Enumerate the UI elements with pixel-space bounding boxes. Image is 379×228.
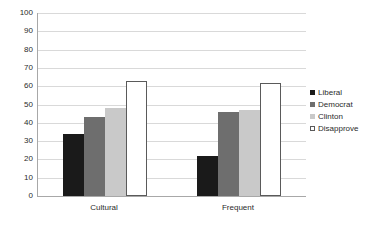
y-axis-tick-label: 20 — [3, 155, 33, 163]
bar-cultural-disapprove — [126, 81, 147, 196]
legend-swatch-icon-liberal — [310, 90, 315, 95]
y-axis-tick-label: 50 — [3, 101, 33, 109]
bar-frequent-democrat — [218, 112, 239, 196]
legend-item-clinton[interactable]: Clinton — [310, 110, 378, 122]
legend-label: Clinton — [318, 112, 343, 121]
legend-label: Disapprove — [318, 124, 358, 133]
bar-cultural-democrat — [84, 117, 105, 196]
y-axis-tick-label: 80 — [3, 46, 33, 54]
bar-frequent-liberal — [197, 156, 218, 196]
y-axis-tick-label: 70 — [3, 64, 33, 72]
bar-group-frequent — [197, 13, 280, 196]
legend-item-democrat[interactable]: Democrat — [310, 98, 378, 110]
legend-label: Liberal — [318, 88, 342, 97]
bar-frequent-disapprove — [260, 83, 281, 196]
chart-legend: LiberalDemocratClintonDisapprove — [310, 86, 378, 134]
bar-chart: 1009080706050403020100 CulturalFrequent … — [0, 0, 379, 228]
x-axis-tick-label-frequent: Frequent — [196, 203, 279, 212]
legend-swatch-icon-democrat — [310, 102, 315, 107]
y-axis-tick-labels: 1009080706050403020100 — [0, 13, 33, 197]
bar-cultural-liberal — [63, 134, 84, 196]
bar-frequent-clinton — [239, 110, 260, 196]
plot-area — [37, 13, 306, 197]
y-axis-tick-label: 60 — [3, 82, 33, 90]
y-axis-tick-label: 100 — [3, 9, 33, 17]
legend-item-disapprove[interactable]: Disapprove — [310, 122, 378, 134]
legend-label: Democrat — [318, 100, 353, 109]
bar-cultural-clinton — [105, 108, 126, 196]
bar-group-cultural — [63, 13, 146, 196]
y-axis-tick-label: 40 — [3, 119, 33, 127]
y-axis-tick-label: 10 — [3, 174, 33, 182]
legend-swatch-icon-clinton — [310, 114, 315, 119]
y-axis-tick-label: 30 — [3, 137, 33, 145]
x-axis-tick-label-cultural: Cultural — [62, 203, 145, 212]
gridline — [38, 196, 306, 197]
legend-swatch-icon-disapprove — [310, 126, 315, 131]
y-axis-tick-label: 90 — [3, 27, 33, 35]
y-axis-tick-label: 0 — [3, 192, 33, 200]
legend-item-liberal[interactable]: Liberal — [310, 86, 378, 98]
